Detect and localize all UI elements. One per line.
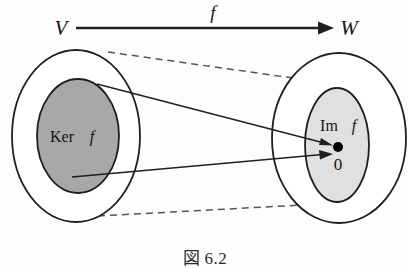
codomain-label-W: W xyxy=(340,16,360,40)
dashed-guide-lower xyxy=(98,205,302,216)
domain-label-V: V xyxy=(55,16,70,40)
map-arrow-group xyxy=(76,22,334,35)
figure-caption-number: 6.2 xyxy=(204,249,227,268)
linear-map-kernel-image-diagram: W ===== --> V W f Ker f Im f xyxy=(0,0,410,268)
image-label-roman: Im xyxy=(320,117,338,134)
map-label-f: f xyxy=(210,2,218,23)
figure-caption: 図6.2 xyxy=(0,244,410,268)
zero-point-dot-icon xyxy=(333,142,343,152)
figure-page: W ===== --> V W f Ker f Im f xyxy=(0,0,410,268)
kernel-label-roman: Ker xyxy=(50,128,75,145)
zero-label: 0 xyxy=(334,155,343,174)
map-arrow-head-icon xyxy=(318,22,334,35)
figure-caption-symbol: 図 xyxy=(183,249,201,268)
dashed-guide-upper xyxy=(108,52,300,79)
